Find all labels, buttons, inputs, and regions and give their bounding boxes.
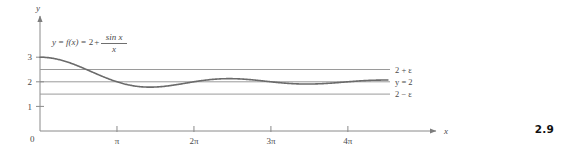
formula-fx: f(x) bbox=[66, 37, 79, 47]
figure-container: x y 0 123 π2π3π4π 2 + εy = 22 − ε y=f(x)… bbox=[0, 0, 564, 152]
formula-eq2: = bbox=[81, 37, 86, 47]
figure-number: 2.9 bbox=[535, 123, 554, 135]
limit-graph: x y 0 123 π2π3π4π 2 + εy = 22 − ε y=f(x)… bbox=[0, 0, 564, 152]
axis-group: x y 0 bbox=[30, 3, 448, 144]
x-tick-label: π bbox=[115, 136, 120, 146]
x-axis-label: x bbox=[443, 126, 448, 136]
band-label-upper-bound: 2 + ε bbox=[395, 65, 412, 75]
y-tick-group: 123 bbox=[28, 52, 45, 111]
y-tick-label-1: 1 bbox=[28, 102, 33, 112]
x-tick-group: π2π3π4π bbox=[115, 126, 353, 146]
svg-text:y=f(x)=2+: y=f(x)=2+ bbox=[51, 37, 99, 47]
reference-lines-group bbox=[40, 70, 390, 95]
formula-fraction-denominator: x bbox=[111, 44, 116, 54]
formula-lhs: y bbox=[51, 37, 56, 47]
formula-eq1: = bbox=[59, 37, 64, 47]
formula-fraction-numerator: sin x bbox=[106, 32, 123, 42]
y-tick-label-2: 2 bbox=[28, 77, 33, 87]
band-label-limit: y = 2 bbox=[395, 77, 413, 87]
y-axis-label: y bbox=[35, 3, 40, 13]
x-tick-label: 2π bbox=[189, 136, 199, 146]
y-tick-label-3: 3 bbox=[28, 52, 33, 62]
function-curve bbox=[40, 57, 388, 87]
band-label-lower-bound: 2 − ε bbox=[395, 89, 412, 99]
curve-formula-label: y=f(x)=2+ sin x x bbox=[51, 32, 127, 54]
formula-const: 2 bbox=[89, 37, 94, 47]
origin-label: 0 bbox=[30, 134, 35, 144]
x-tick-label: 3π bbox=[266, 136, 276, 146]
x-tick-label: 4π bbox=[343, 136, 353, 146]
band-label-group: 2 + εy = 22 − ε bbox=[395, 65, 413, 100]
formula-plus: + bbox=[94, 37, 99, 47]
